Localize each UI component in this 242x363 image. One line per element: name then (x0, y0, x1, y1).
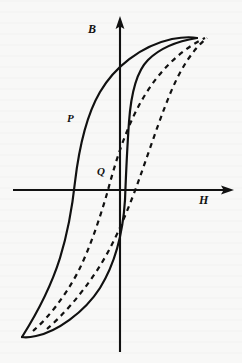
h-axis-label: H (198, 193, 209, 207)
figure-container: B H P Q (0, 0, 242, 363)
axes-group (13, 16, 234, 352)
hysteresis-loop-diagram: B H P Q (0, 0, 242, 363)
b-axis-label: B (87, 22, 96, 36)
point-label-q: Q (97, 165, 105, 177)
point-label-p: P (67, 112, 74, 124)
